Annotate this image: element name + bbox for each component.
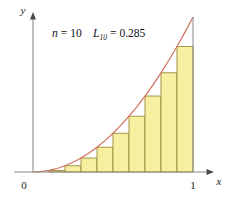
riemann-rectangle [81, 158, 97, 172]
annotation-group: n=10 L10=0.285 [52, 27, 146, 42]
chart-canvas: y x 0 1 n=10 L10=0.285 [0, 0, 233, 198]
xtick-label-one: 1 [190, 179, 196, 191]
riemann-rectangle [177, 46, 193, 172]
y-axis-arrowhead [30, 12, 36, 20]
riemann-rectangle [129, 116, 145, 172]
annotation-n: n=10 [52, 27, 82, 39]
riemann-rectangle [97, 147, 113, 172]
riemann-rectangle [113, 133, 129, 172]
annotation-l-symbol: L [92, 27, 99, 39]
annotation-l-subscript: 10 [99, 33, 107, 42]
riemann-rectangle [145, 96, 161, 172]
origin-tick-label: 0 [21, 179, 27, 191]
x-axis-arrowhead [207, 169, 215, 175]
annotation-l-value: 0.285 [119, 27, 145, 39]
annotation-n-value: 10 [70, 27, 82, 39]
riemann-rectangles [49, 46, 193, 172]
riemann-rectangle [65, 166, 81, 172]
annotation-lower-sum: L10=0.285 [92, 27, 146, 42]
x-axis-label: x [216, 175, 222, 187]
riemann-sum-figure: y x 0 1 n=10 L10=0.285 [0, 0, 233, 198]
y-axis-label: y [20, 4, 26, 16]
annotation-n-symbol: n [52, 27, 58, 39]
riemann-rectangle [161, 73, 177, 172]
